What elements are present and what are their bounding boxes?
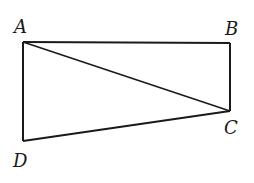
label-c: C	[224, 117, 238, 138]
segment-ab	[23, 42, 230, 43]
segment-cd	[23, 111, 230, 141]
label-b: B	[224, 18, 238, 39]
quadrilateral-diagram: A B C D	[0, 0, 254, 183]
label-a: A	[12, 16, 27, 37]
label-d: D	[12, 150, 28, 171]
diagonal-ac	[23, 42, 230, 111]
